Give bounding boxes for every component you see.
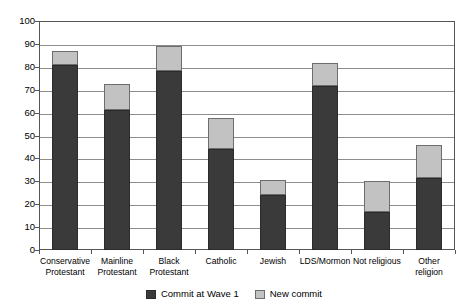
y-tick-label: 100: [0, 16, 35, 26]
y-tick-label: 30: [0, 177, 35, 187]
bar-group: [364, 21, 390, 250]
bar-segment-commit-at-wave-1: [208, 149, 234, 250]
y-tick-label: 10: [0, 222, 35, 232]
bar-segment-new-commit: [104, 84, 130, 110]
x-tick-mark: [39, 250, 40, 254]
x-tick-mark: [91, 250, 92, 254]
bar-segment-commit-at-wave-1: [312, 86, 338, 250]
bar-segment-new-commit: [52, 51, 78, 65]
y-tick-label: 40: [0, 154, 35, 164]
x-axis-category-label: Other religion: [397, 256, 461, 277]
bar-segment-commit-at-wave-1: [156, 71, 182, 250]
bar-group: [260, 21, 286, 250]
x-axis-labels: Conservative ProtestantMainline Protesta…: [39, 256, 455, 286]
bar-segment-commit-at-wave-1: [52, 65, 78, 250]
x-tick-mark: [143, 250, 144, 254]
bar-segment-new-commit: [416, 145, 442, 178]
y-tick-label: 20: [0, 199, 35, 209]
x-tick-mark: [247, 250, 248, 254]
x-tick-mark: [351, 250, 352, 254]
y-tick-label: 70: [0, 85, 35, 95]
y-tick-label: 80: [0, 62, 35, 72]
bar-group: [208, 21, 234, 250]
bar-segment-commit-at-wave-1: [416, 178, 442, 250]
y-tick-label: 60: [0, 108, 35, 118]
bar-group: [156, 21, 182, 250]
x-tick-mark: [455, 250, 456, 254]
x-tick-mark: [299, 250, 300, 254]
legend-swatch-icon: [146, 290, 156, 299]
bar-segment-commit-at-wave-1: [364, 212, 390, 250]
bar-group: [52, 21, 78, 250]
legend-item-commit-at-wave-1: Commit at Wave 1: [146, 289, 239, 299]
bar-group: [416, 21, 442, 250]
y-tick-label: 90: [0, 39, 35, 49]
legend-label: Commit at Wave 1: [161, 289, 239, 299]
bar-segment-new-commit: [364, 181, 390, 212]
bar-segment-commit-at-wave-1: [260, 195, 286, 250]
bar-group: [312, 21, 338, 250]
x-tick-mark: [195, 250, 196, 254]
legend-label: New commit: [270, 289, 322, 299]
bar-segment-new-commit: [312, 63, 338, 86]
bars-layer: [39, 21, 455, 250]
bar-group: [104, 21, 130, 250]
y-tick-label: 0: [0, 245, 35, 255]
bar-segment-commit-at-wave-1: [104, 110, 130, 250]
bar-segment-new-commit: [208, 118, 234, 149]
y-axis: 0102030405060708090100: [0, 21, 35, 250]
legend-item-new-commit: New commit: [255, 289, 322, 299]
y-tick-label: 50: [0, 131, 35, 141]
stacked-bar-chart: 0102030405060708090100 Conservative Prot…: [0, 0, 468, 307]
legend-swatch-icon: [255, 290, 265, 299]
chart-legend: Commit at Wave 1 New commit: [0, 286, 468, 302]
x-axis-ticks: [39, 250, 455, 255]
bar-segment-new-commit: [260, 180, 286, 195]
x-tick-mark: [403, 250, 404, 254]
bar-segment-new-commit: [156, 46, 182, 71]
